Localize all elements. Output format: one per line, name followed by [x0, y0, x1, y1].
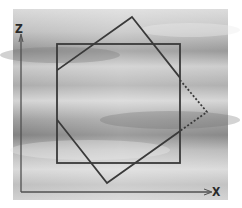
- z-axis-label: Z: [15, 22, 23, 36]
- diagram-canvas: Z X: [0, 0, 242, 208]
- x-axis-label: X: [212, 185, 221, 199]
- sky-background: [0, 9, 240, 200]
